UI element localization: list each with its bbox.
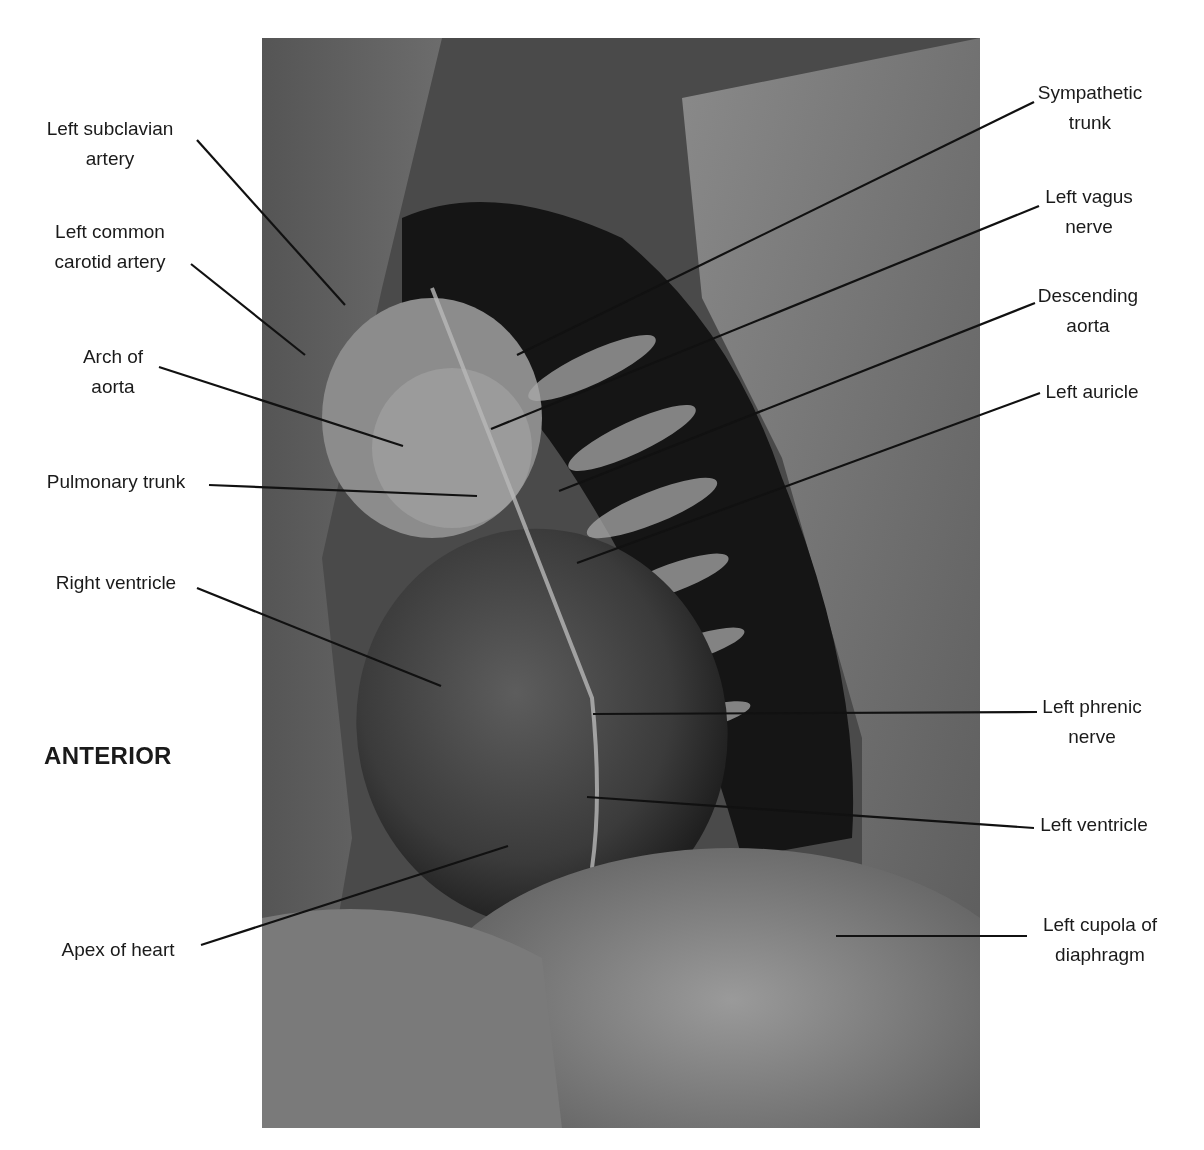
label-apex-of-heart: Apex of heart — [61, 935, 174, 965]
orientation-label: ANTERIOR — [44, 742, 172, 770]
label-line: Left ventricle — [1040, 810, 1148, 840]
label-left-phrenic-nerve: Left phrenicnerve — [1042, 692, 1141, 752]
label-left-cupola-of-diaphragm: Left cupola ofdiaphragm — [1043, 910, 1157, 970]
label-line: Left subclavian — [47, 114, 174, 144]
label-line: nerve — [1045, 212, 1133, 242]
label-line: Sympathetic — [1038, 78, 1143, 108]
label-right-ventricle: Right ventricle — [56, 568, 176, 598]
label-line: trunk — [1038, 108, 1143, 138]
label-left-ventricle: Left ventricle — [1040, 810, 1148, 840]
label-line: artery — [47, 144, 174, 174]
label-pulmonary-trunk: Pulmonary trunk — [47, 467, 185, 497]
dissection-photo — [262, 38, 980, 1128]
label-line: Descending — [1038, 281, 1138, 311]
label-left-vagus-nerve: Left vagusnerve — [1045, 182, 1133, 242]
label-line: Pulmonary trunk — [47, 467, 185, 497]
label-line: nerve — [1042, 722, 1141, 752]
label-arch-of-aorta: Arch ofaorta — [83, 342, 143, 402]
label-line: Arch of — [83, 342, 143, 372]
label-left-subclavian-artery: Left subclavianartery — [47, 114, 174, 174]
label-line: diaphragm — [1043, 940, 1157, 970]
label-line: Left cupola of — [1043, 910, 1157, 940]
label-sympathetic-trunk: Sympathetictrunk — [1038, 78, 1143, 138]
label-line: Left auricle — [1046, 377, 1139, 407]
label-left-common-carotid-artery: Left commoncarotid artery — [55, 217, 166, 277]
label-descending-aorta: Descendingaorta — [1038, 281, 1138, 341]
label-line: aorta — [1038, 311, 1138, 341]
label-line: aorta — [83, 372, 143, 402]
photo-rendering — [262, 38, 980, 1128]
label-line: Left vagus — [1045, 182, 1133, 212]
label-line: Right ventricle — [56, 568, 176, 598]
label-line: Left common — [55, 217, 166, 247]
label-left-auricle: Left auricle — [1046, 377, 1139, 407]
label-line: Left phrenic — [1042, 692, 1141, 722]
label-line: Apex of heart — [61, 935, 174, 965]
label-line: carotid artery — [55, 247, 166, 277]
